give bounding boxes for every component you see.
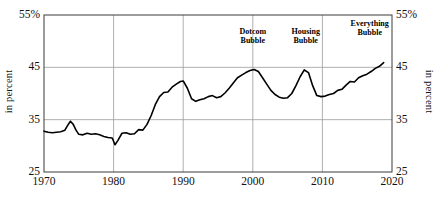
y-tick-label-right-45: 45 xyxy=(396,61,430,73)
x-tick-label-2020: 2020 xyxy=(370,176,414,188)
x-tick-label-1970: 1970 xyxy=(22,176,66,188)
y-tick-label-left-45: 45 xyxy=(6,61,40,73)
x-tick-label-1980: 1980 xyxy=(92,176,136,188)
data-series-line xyxy=(44,63,384,145)
x-tick-label-1990: 1990 xyxy=(161,176,205,188)
x-tick-label-2010: 2010 xyxy=(300,176,344,188)
annotation-line2: Bubble xyxy=(271,36,341,45)
annotation-line1: Everything xyxy=(335,19,405,28)
annotation-everything-bubble: Everything Bubble xyxy=(335,19,405,37)
y-tick-label-left-35: 35 xyxy=(6,114,40,126)
chart-container: in percent in percent 55% 45 35 25 55% 4… xyxy=(0,0,437,199)
annotation-line1: Housing xyxy=(271,27,341,36)
x-tick-label-2000: 2000 xyxy=(231,176,275,188)
annotation-housing-bubble: Housing Bubble xyxy=(271,27,341,45)
y-tick-label-right-35: 35 xyxy=(396,114,430,126)
y-tick-label-left-55: 55% xyxy=(6,9,40,21)
annotation-line2: Bubble xyxy=(335,28,405,37)
